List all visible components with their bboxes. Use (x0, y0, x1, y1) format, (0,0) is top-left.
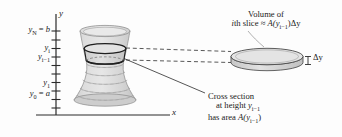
volume-slice-text: th slice ≈ (234, 18, 268, 28)
leader-lines-to-disk (126, 48, 231, 63)
volume-area-sub: i−1 (279, 23, 287, 30)
cross-has-area-text: has area (208, 112, 238, 122)
delta-y-measure-bracket (305, 57, 311, 65)
cross-section-pointer-line (124, 59, 205, 94)
solid-body (74, 31, 136, 100)
volume-slicing-figure: y x yN = b yi yi−1 y1 y0 = a Volume of i… (0, 0, 342, 137)
y-axis-label: y (59, 9, 63, 19)
volume-caption-pointer (248, 31, 264, 47)
detached-disk-top (231, 48, 303, 64)
tick-label-yi-minus-1: yi−1 (4, 52, 50, 63)
tick-yi1-sub: i−1 (42, 56, 50, 63)
cross-section-annotation: Cross section at height yi−1 has area A(… (208, 92, 342, 124)
cross-area-tail: ) (258, 112, 261, 122)
solid-top-opening (84, 27, 127, 36)
delta-y-label: Δy (313, 53, 323, 62)
cross-area-func: A(y (238, 112, 250, 122)
tick-y0-eq: = (37, 88, 46, 98)
cross-section-line3: has area A(yi−1) (208, 113, 342, 124)
volume-area-func: A(y (268, 18, 280, 28)
x-axis-label: x (172, 108, 176, 118)
tick-yN-value: b (46, 24, 50, 34)
volume-annotation: Volume of ith slice ≈ A(yi−1)Δy (196, 10, 336, 31)
highlighted-slice-top-ellipse (84, 44, 126, 54)
tick-yN-eq: = (37, 24, 46, 34)
cross-at-height-text: at height (216, 100, 248, 110)
tick-label-y0: y0 = a (4, 89, 50, 100)
volume-annotation-line2: ith slice ≈ A(yi−1)Δy (196, 19, 336, 30)
volume-area-tail: )Δy (288, 18, 301, 28)
tick-label-yN: yN = b (6, 25, 50, 36)
tick-y0-value: a (46, 88, 50, 98)
